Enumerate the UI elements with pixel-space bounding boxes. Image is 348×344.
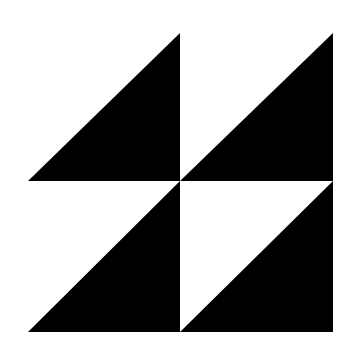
triangle-pattern xyxy=(0,0,348,344)
triangle-bottom-left xyxy=(28,181,180,332)
triangle-top-left xyxy=(28,33,180,181)
figure-canvas: Half-square triangle block pattern xyxy=(0,0,348,344)
triangle-top-right xyxy=(180,33,333,181)
triangle-bottom-right xyxy=(180,181,333,332)
